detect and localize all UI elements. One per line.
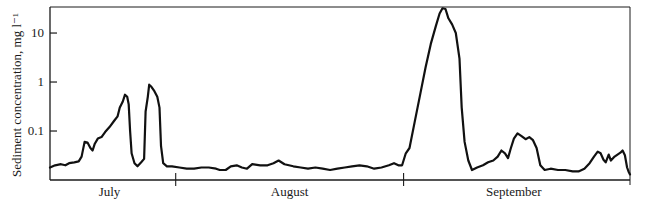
y-axis-title: Sediment concentration, mg l⁻¹: [9, 13, 24, 177]
y-tick-label: 1: [38, 74, 45, 89]
month-label: August: [271, 184, 309, 199]
sediment-chart: 1010.1 JulyAugustSeptember Sediment conc…: [0, 0, 648, 205]
series-layer: [50, 8, 630, 174]
series-line-sediment-concentration: [50, 8, 630, 174]
y-axis-ticks: 1010.1: [28, 25, 57, 138]
plot-frame: [50, 7, 630, 185]
month-label: July: [99, 184, 121, 199]
y-tick-label: 10: [31, 25, 44, 40]
y-tick-label: 0.1: [28, 123, 44, 138]
month-label: September: [486, 184, 542, 199]
x-axis-ticks: JulyAugustSeptember: [99, 173, 543, 199]
